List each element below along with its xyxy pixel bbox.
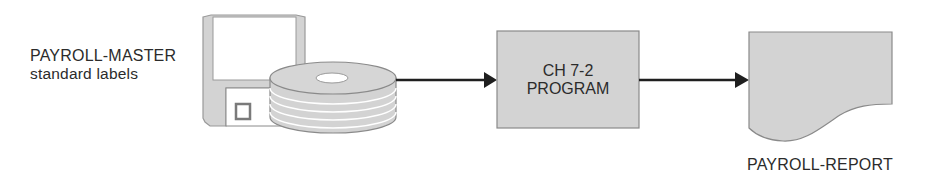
arrow-process-to-output	[639, 72, 749, 88]
arrow-input-to-process	[396, 72, 497, 88]
process-line-1: CH 7-2	[543, 62, 594, 80]
process-line-2: PROGRAM	[527, 80, 610, 98]
output-file-label: PAYROLL-REPORT	[747, 156, 893, 174]
disk-pack-icon	[270, 62, 396, 133]
output-document-shape	[749, 32, 892, 141]
process-label: CH 7-2 PROGRAM	[497, 31, 639, 128]
